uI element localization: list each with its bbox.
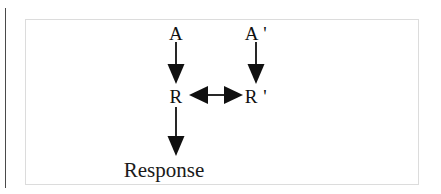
node-label-a: A — [169, 24, 183, 43]
node-label-a-prime: A ' — [245, 24, 267, 43]
receptor-flow-diagram: A A ' R R ' Response — [0, 0, 441, 194]
arrow-r-to-rprime-bidirectional — [189, 86, 243, 104]
node-label-r-prime: R ' — [245, 87, 267, 106]
node-label-r: R — [169, 87, 182, 106]
arrow-aprime-to-rprime — [248, 42, 265, 84]
arrow-r-to-response — [168, 107, 185, 156]
arrow-layer — [0, 0, 441, 194]
arrow-a-to-r — [168, 42, 185, 84]
node-label-response: Response — [124, 160, 205, 181]
figure-page: A A ' R R ' Response — [0, 0, 441, 194]
